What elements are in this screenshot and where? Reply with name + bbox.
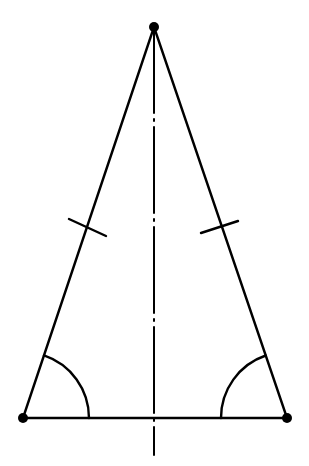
base-left-vertex-dot [18, 413, 28, 423]
left-base-angle-arc [44, 355, 89, 418]
base-right-vertex-dot [282, 413, 292, 423]
apex-vertex-dot [149, 22, 159, 32]
right-side [154, 27, 287, 418]
right-base-angle-arc [221, 356, 266, 419]
left-side [23, 27, 154, 418]
isosceles-triangle-diagram [0, 0, 309, 466]
left-congruence-tick [69, 219, 106, 236]
